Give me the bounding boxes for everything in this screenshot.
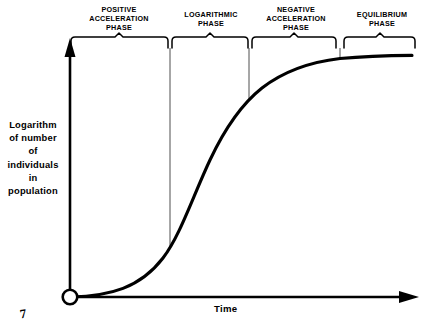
origin-marker-circle [63, 290, 78, 305]
growth-curve [71, 55, 412, 297]
x-axis [70, 291, 419, 303]
phase-bracket-negative-acceleration [252, 33, 336, 48]
phase-bracket-group [71, 33, 415, 48]
phase-label-negative-acceleration: NEGATIVE ACCELERATION PHASE [252, 5, 340, 33]
phase-label-equilibrium: EQUILIBRIUM PHASE [344, 10, 420, 28]
y-axis-arrow-up-icon [65, 38, 76, 57]
x-axis-arrow-right-icon [399, 291, 419, 303]
phase-bracket-equilibrium [344, 33, 415, 48]
phase-label-positive-acceleration: POSITIVE ACCELERATION PHASE [73, 5, 165, 33]
phase-bracket-logarithmic [172, 33, 248, 48]
phase-divider-group [170, 48, 340, 246]
growth-curve-figure [0, 0, 428, 336]
corner-annotation-mark: 7 [19, 306, 28, 323]
phase-bracket-positive-acceleration [71, 33, 168, 48]
phase-label-logarithmic: LOGARITHMIC PHASE [172, 10, 250, 28]
y-axis [65, 38, 76, 297]
x-axis-label: Time [214, 303, 237, 314]
y-axis-label: Logarithm of number of individuals in po… [2, 118, 64, 197]
